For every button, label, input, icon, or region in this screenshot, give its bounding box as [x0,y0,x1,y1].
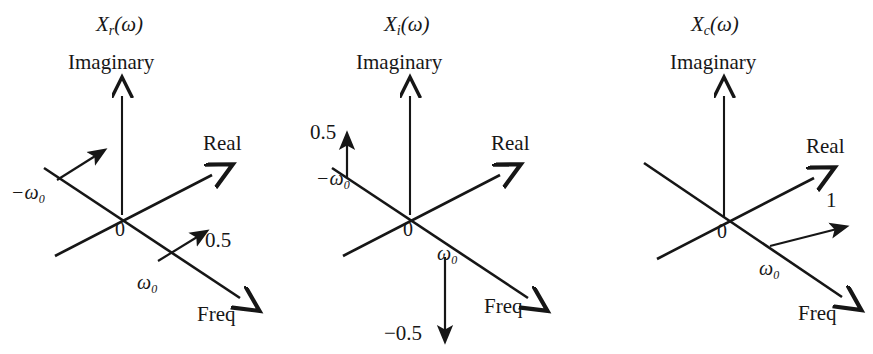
diagram-panel-xr: Xr(ω) Imaginary Real Freq 0 −ω₀ ω₀ 0.5 [0,0,290,354]
impulse-location-label-pos-w0-xc: ω₀ [759,258,780,278]
impulse-value-label-pos-w0-xi: −0.5 [384,323,422,344]
real-axis-xc [657,178,814,259]
impulse-pos-w0-xc [770,228,841,246]
impulse-pos-w0-text-xi: ω₀ [437,242,458,264]
imaginary-axis-label-xc: Imaginary [670,52,756,73]
panel-title-xr: Xr(ω) [96,14,143,38]
panel-title-arg-xr: (ω) [114,12,143,36]
panel-title-xc: Xc(ω) [691,14,739,38]
impulse-location-label-pos-w0-xi: ω₀ [437,243,458,263]
real-axis-label-xc: Real [806,136,844,157]
freq-axis-xc [644,163,842,297]
freq-axis-label-xr: Freq [197,304,236,325]
diagram-panel-xi: Xi(ω) Imaginary Real Freq 0 0.5 −ω₀ ω₀ −… [290,0,573,354]
figure-three-spectrum-diagrams: Xr(ω) Imaginary Real Freq 0 −ω₀ ω₀ 0.5 [0,0,873,354]
imaginary-axis-label-xr: Imaginary [68,52,154,73]
panel-title-arg-xi: (ω) [401,12,430,36]
panel-title-base-xi: X [384,12,397,36]
impulse-value-label-pos-w0-xc: 1 [826,190,837,211]
impulse-location-label-neg-w0-xr: −ω₀ [11,182,46,202]
panel-title-base-xr: X [96,12,109,36]
real-axis-xi [343,175,500,256]
real-axis-label-xr: Real [203,133,241,154]
freq-axis-xi [332,168,528,298]
impulse-value-label-neg-w0-xi: 0.5 [310,122,336,143]
impulse-neg-w0-text-xr: −ω₀ [11,181,46,203]
impulse-neg-w0-text-xi: −ω₀ [316,167,351,189]
impulse-pos-w0-text-xr: ω₀ [137,271,158,293]
freq-axis-label-xi: Freq [484,296,523,317]
panel-title-arg-xc: (ω) [710,12,739,36]
panel-title-xi: Xi(ω) [384,14,430,38]
impulse-location-label-neg-w0-xi: −ω₀ [316,168,351,188]
diagram-panel-xc: Xc(ω) Imaginary Real Freq 0 ω₀ 1 [573,0,873,354]
impulse-neg-w0-xr [57,153,100,180]
freq-axis-label-xc: Freq [798,303,837,324]
impulse-pos-w0-text-xc: ω₀ [759,257,780,279]
real-axis-label-xi: Real [491,133,529,154]
origin-label-xi: 0 [403,219,413,239]
origin-label-xc: 0 [717,221,727,241]
real-axis-xr [55,175,212,256]
impulse-value-label-pos-w0-xr: 0.5 [205,230,231,251]
impulse-location-label-pos-w0-xr: ω₀ [137,272,158,292]
panel-title-base-xc: X [691,12,704,36]
imaginary-axis-label-xi: Imaginary [356,52,442,73]
origin-label-xr: 0 [115,219,125,239]
